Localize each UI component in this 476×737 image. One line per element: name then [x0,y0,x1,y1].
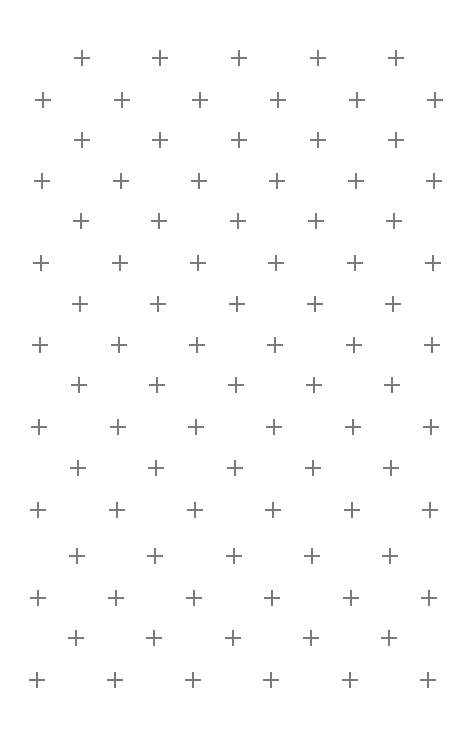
plus-icon [228,377,244,393]
plus-icon [107,672,123,688]
plus-icon [267,337,283,353]
plus-icon [268,255,284,271]
plus-icon [308,213,324,229]
plus-icon [35,92,51,108]
plus-icon [310,50,326,66]
plus-icon [342,672,358,688]
plus-icon [187,502,203,518]
plus-icon [303,630,319,646]
plus-icon [152,132,168,148]
plus-icon [108,590,124,606]
plus-icon [147,548,163,564]
plus-icon [304,548,320,564]
plus-icon [32,337,48,353]
plus-icon [269,173,285,189]
plus-icon [74,132,90,148]
plus-icon [263,672,279,688]
plus-icon [34,173,50,189]
plus-icon [33,255,49,271]
plus-icon [185,672,201,688]
plus-icon [423,419,439,435]
plus-icon [427,92,443,108]
plus-icon [31,419,47,435]
plus-icon [72,296,88,312]
plus-icon [73,213,89,229]
plus-icon [226,548,242,564]
plus-icon [70,460,86,476]
plus-icon [29,672,45,688]
plus-icon [386,213,402,229]
plus-icon [349,92,365,108]
plus-icon [347,255,363,271]
plus-icon [186,590,202,606]
plus-icon [151,213,167,229]
plus-icon [148,460,164,476]
plus-icon [110,419,126,435]
plus-icon [383,460,399,476]
plus-icon [114,92,130,108]
plus-icon [381,630,397,646]
plus-icon [346,337,362,353]
plus-icon [68,630,84,646]
plus-icon [149,377,165,393]
plus-icon [382,548,398,564]
plus-icon [231,132,247,148]
plus-icon [146,630,162,646]
plus-icon [421,590,437,606]
plus-pattern-canvas [0,0,476,737]
plus-icon [345,419,361,435]
plus-icon [152,50,168,66]
plus-icon [270,92,286,108]
plus-icon [191,173,207,189]
plus-icon [344,502,360,518]
plus-icon [385,296,401,312]
plus-icon [264,590,280,606]
plus-icon [150,296,166,312]
plus-icon [230,213,246,229]
plus-icon [425,255,441,271]
plus-icon [112,255,128,271]
plus-icon [189,337,205,353]
plus-icon [109,502,125,518]
plus-icon [30,590,46,606]
plus-icon [266,419,282,435]
plus-icon [388,132,404,148]
plus-icon [192,92,208,108]
plus-icon [384,377,400,393]
plus-icon [69,548,85,564]
plus-icon [113,173,129,189]
plus-icon [310,132,326,148]
plus-icon [188,419,204,435]
plus-icon [229,296,245,312]
plus-icon [424,337,440,353]
plus-icon [420,672,436,688]
plus-icon [306,377,322,393]
plus-icon [190,255,206,271]
plus-icon [231,50,247,66]
plus-icon [305,460,321,476]
plus-icon [30,502,46,518]
plus-icon [74,50,90,66]
plus-icon [307,296,323,312]
plus-icon [343,590,359,606]
plus-icon [388,50,404,66]
plus-icon [111,337,127,353]
plus-icon [422,502,438,518]
plus-icon [227,460,243,476]
plus-icon [265,502,281,518]
plus-icon [348,173,364,189]
plus-icon [426,173,442,189]
plus-icon [71,377,87,393]
plus-icon [225,630,241,646]
